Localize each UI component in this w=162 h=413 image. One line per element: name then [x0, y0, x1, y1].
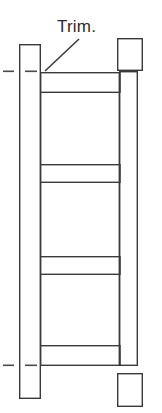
- left-stile-shape: [20, 45, 41, 399]
- rail-bottom-shape: [40, 346, 120, 366]
- line-drawing-canvas: Trim.: [0, 0, 162, 413]
- rail-top-shape: [40, 73, 120, 93]
- block-top-right-shape: [118, 39, 143, 71]
- rail-second-shape: [40, 165, 120, 183]
- trim-label: Trim.: [57, 17, 96, 36]
- ladder-frame-drawing: [0, 0, 162, 413]
- rail-third-shape: [40, 257, 120, 275]
- right-stile-shape: [120, 72, 138, 366]
- block-bottom-right-shape: [118, 374, 143, 407]
- trim-leader-line: [45, 39, 79, 71]
